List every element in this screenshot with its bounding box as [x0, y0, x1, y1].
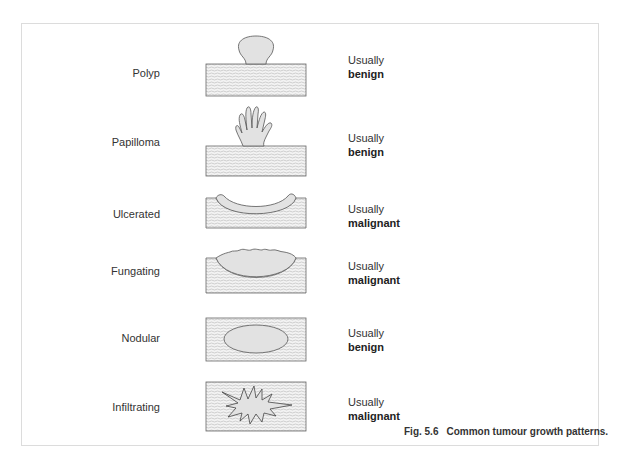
pattern-label-infiltrating: Infiltrating: [40, 401, 160, 413]
verdict-nature: malignant: [348, 409, 400, 423]
nodular-illustration: [206, 318, 306, 361]
verdict-nature: benign: [348, 145, 384, 159]
verdict-prefix: Usually: [348, 327, 384, 339]
verdict-nature: benign: [348, 340, 384, 354]
verdict-prefix: Usually: [348, 396, 384, 408]
pattern-label-polyp: Polyp: [40, 67, 160, 79]
polyp-illustration: [206, 36, 306, 96]
fungating-illustration: [206, 249, 306, 293]
pattern-label-ulcerated: Ulcerated: [40, 208, 160, 220]
verdict-prefix: Usually: [348, 260, 384, 272]
verdict-prefix: Usually: [348, 132, 384, 144]
papilloma-illustration: [206, 107, 306, 176]
pattern-label-papilloma: Papilloma: [40, 136, 160, 148]
figure-caption: Fig. 5.6Common tumour growth patterns.: [404, 426, 608, 437]
verdict-polyp: Usually benign: [348, 53, 384, 81]
verdict-nodular: Usually benign: [348, 326, 384, 354]
verdict-fungating: Usually malignant: [348, 259, 400, 287]
verdict-papilloma: Usually benign: [348, 131, 384, 159]
caption-text: Common tumour growth patterns.: [446, 426, 608, 437]
pattern-label-fungating: Fungating: [40, 265, 160, 277]
verdict-ulcerated: Usually malignant: [348, 202, 400, 230]
verdict-infiltrating: Usually malignant: [348, 395, 400, 423]
verdict-prefix: Usually: [348, 54, 384, 66]
pattern-label-nodular: Nodular: [40, 332, 160, 344]
verdict-nature: malignant: [348, 273, 400, 287]
verdict-nature: malignant: [348, 216, 400, 230]
caption-number: Fig. 5.6: [404, 426, 438, 437]
ulcerated-illustration: [206, 194, 306, 228]
infiltrating-illustration: [206, 382, 306, 431]
verdict-prefix: Usually: [348, 203, 384, 215]
verdict-nature: benign: [348, 67, 384, 81]
